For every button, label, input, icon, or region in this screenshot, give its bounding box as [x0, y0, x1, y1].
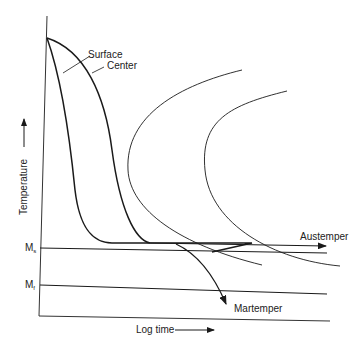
ms-line — [40, 248, 327, 253]
y-axis — [39, 16, 47, 316]
center-label: Center — [107, 61, 137, 71]
martemper-arrow — [176, 244, 226, 304]
diagram-canvas — [0, 0, 359, 351]
martemper-label: Martemper — [234, 304, 282, 314]
ttt-start-curve — [128, 70, 262, 265]
x-axis-label: Log time — [136, 325, 174, 335]
x-axis — [39, 316, 330, 321]
surface-cooling-curve — [47, 38, 252, 252]
surface-label: Surface — [88, 50, 122, 60]
austemper-label: Austemper — [300, 232, 348, 242]
mf-line — [40, 285, 327, 294]
y-axis-label: Temperature — [19, 147, 29, 227]
center-leader — [92, 67, 104, 73]
mf-label: Mf — [25, 280, 35, 291]
ms-label: Ms — [25, 243, 36, 254]
ttt-diagram: Surface Center Temperature Log time Ms M… — [0, 0, 359, 351]
